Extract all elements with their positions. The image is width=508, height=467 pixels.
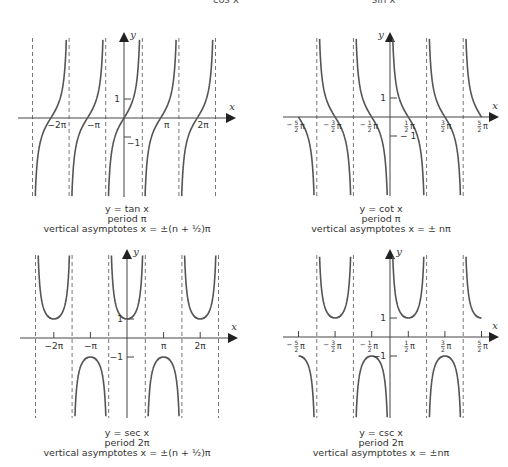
graph-sec: [20, 249, 238, 418]
x-tick-denominator: 2: [331, 126, 335, 133]
y-tick-label: −1: [373, 351, 386, 361]
x-tick-numerator: 5: [478, 339, 482, 346]
caption-tan-asymptotes: vertical asymptotes x = ±(n + ½)π: [0, 224, 254, 234]
caption-csc-asymptotes: vertical asymptotes x = ±nπ: [254, 448, 508, 458]
x-tick-pi: π: [446, 122, 451, 131]
y-axis-label: y: [395, 246, 402, 257]
x-tick-numerator: 3: [331, 339, 335, 346]
caption-cot: y = cot x period π vertical asymptotes x…: [254, 204, 508, 234]
cot-curve: [466, 39, 482, 117]
y-axis-arrow-icon: [119, 32, 129, 42]
x-tick-denominator: 2: [331, 346, 335, 353]
graph-tan: [18, 32, 236, 197]
y-tick-label: −1: [110, 352, 123, 362]
y-tick-label: −1: [127, 138, 140, 148]
caption-tan: y = tan x period π vertical asymptotes x…: [0, 204, 254, 234]
x-tick-sign: −: [323, 341, 329, 349]
x-tick-numerator: 3: [331, 119, 335, 126]
x-tick-numerator: 3: [441, 119, 445, 126]
x-tick-denominator: 2: [441, 126, 445, 133]
x-tick-denominator: 2: [404, 126, 408, 133]
x-tick-label: −2π: [47, 120, 66, 130]
x-tick-sign: −: [287, 341, 293, 349]
x-tick-numerator: 5: [478, 119, 482, 126]
x-tick-numerator: 5: [295, 339, 299, 346]
x-tick-pi: π: [483, 122, 488, 131]
x-tick-label: −2π: [44, 341, 63, 351]
y-axis-label: y: [129, 29, 136, 40]
x-tick-denominator: 2: [295, 126, 299, 133]
x-tick-pi: π: [300, 122, 305, 131]
x-tick-label: 2π: [198, 120, 210, 130]
y-axis-arrow-icon: [122, 249, 132, 259]
x-axis-label: x: [231, 321, 237, 332]
csc-curve: [429, 356, 460, 417]
x-axis-arrow-icon: [489, 332, 499, 342]
sec-curve: [148, 357, 179, 416]
x-tick-pi: π: [410, 122, 415, 131]
sec-curve: [75, 357, 106, 416]
x-tick-numerator: 1: [368, 119, 372, 126]
x-tick-sign: −: [360, 341, 366, 349]
x-tick-numerator: 3: [441, 339, 445, 346]
x-tick-numerator: 1: [404, 119, 408, 126]
x-tick-sign: −: [323, 121, 329, 129]
x-axis-arrow-icon: [489, 112, 499, 122]
x-tick-sign: −: [287, 121, 293, 129]
x-tick-sign: −: [360, 121, 366, 129]
x-tick-pi: π: [337, 122, 342, 131]
x-tick-denominator: 2: [295, 346, 299, 353]
sec-curve: [185, 256, 216, 320]
x-tick-denominator: 2: [368, 126, 372, 133]
x-axis-arrow-icon: [228, 333, 238, 343]
x-tick-label: π: [161, 341, 167, 351]
x-tick-denominator: 2: [368, 346, 372, 353]
caption-sec-asymptotes: vertical asymptotes x = ±(n + ½)π: [0, 448, 254, 458]
x-tick-pi: π: [300, 342, 305, 351]
y-tick-label: 1: [380, 93, 386, 103]
x-tick-pi: π: [373, 342, 378, 351]
csc-curve: [320, 257, 351, 318]
caption-csc: y = csc x period 2π vertical asymptotes …: [254, 428, 508, 458]
x-tick-label: 2π: [195, 341, 207, 351]
caption-cot-asymptotes: vertical asymptotes x = ± nπ: [254, 224, 508, 234]
x-tick-denominator: 2: [441, 346, 445, 353]
graph-csc: [283, 249, 499, 418]
x-tick-label: −π: [87, 120, 101, 130]
csc-curve: [393, 257, 424, 318]
x-tick-numerator: 1: [368, 339, 372, 346]
x-tick-pi: π: [337, 342, 342, 351]
x-axis-label: x: [229, 101, 235, 112]
x-axis-label: x: [492, 320, 498, 331]
x-tick-denominator: 2: [478, 126, 482, 133]
x-tick-pi: π: [446, 342, 451, 351]
caption-sec: y = sec x period 2π vertical asymptotes …: [0, 428, 254, 458]
y-tick-label: 1: [117, 314, 123, 324]
csc-curve: [356, 356, 387, 417]
sec-curve: [38, 256, 69, 320]
y-axis-label: y: [132, 246, 139, 257]
x-tick-pi: π: [373, 122, 378, 131]
x-tick-denominator: 2: [478, 346, 482, 353]
y-tick-label: 1: [114, 94, 120, 104]
y-axis-label: y: [377, 29, 384, 40]
x-tick-denominator: 2: [404, 346, 408, 353]
x-tick-label: π: [164, 120, 170, 130]
csc-curve: [466, 257, 482, 318]
y-tick-label: 1: [380, 313, 386, 323]
csc-curve: [299, 356, 315, 417]
x-tick-pi: π: [410, 342, 415, 351]
x-tick-pi: π: [483, 342, 488, 351]
x-tick-numerator: 5: [295, 119, 299, 126]
x-axis-arrow-icon: [226, 113, 236, 123]
x-tick-numerator: 1: [404, 339, 408, 346]
x-axis-label: x: [492, 100, 498, 111]
x-tick-label: −π: [84, 341, 98, 351]
graph-cot: [283, 32, 499, 196]
